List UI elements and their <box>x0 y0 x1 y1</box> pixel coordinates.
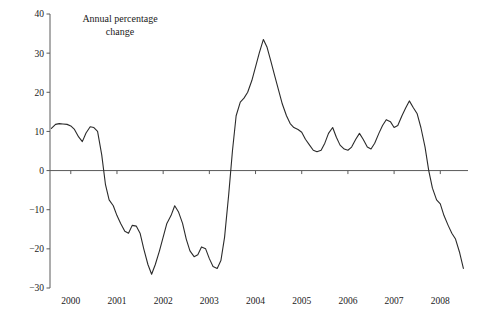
y-tick-label: 10 <box>35 127 45 137</box>
chart-container: Annual percentage change 403020100−10−20… <box>0 0 485 317</box>
y-axis: 403020100−10−20−30 <box>29 9 50 293</box>
y-tick-label: −30 <box>29 283 44 293</box>
y-tick-label: 20 <box>35 88 45 98</box>
y-tick-label: −20 <box>29 244 44 254</box>
chart-title-block: Annual percentage change <box>82 13 158 37</box>
y-tick-label: 40 <box>35 9 45 19</box>
x-tick-label: 2008 <box>431 296 450 306</box>
y-tick-label: 30 <box>35 49 45 59</box>
x-tick-label: 2007 <box>385 296 404 306</box>
chart-title-line-2: change <box>106 26 135 37</box>
x-tick-label: 2005 <box>292 296 311 306</box>
x-tick-label: 2004 <box>246 296 265 306</box>
annual-percentage-change-line-chart: Annual percentage change 403020100−10−20… <box>0 0 485 317</box>
data-series-line <box>51 39 463 274</box>
data-series-group <box>51 39 463 274</box>
x-tick-label: 2001 <box>107 296 126 306</box>
y-tick-label: −10 <box>29 205 44 215</box>
x-tick-label: 2000 <box>61 296 80 306</box>
y-tick-label: 0 <box>39 166 44 176</box>
x-tick-label: 2006 <box>338 296 357 306</box>
x-tick-label: 2003 <box>200 296 219 306</box>
x-axis: 200020012002200320042005200620072008 <box>61 171 450 306</box>
x-tick-label: 2002 <box>154 296 173 306</box>
chart-title-line-1: Annual percentage <box>82 13 158 24</box>
